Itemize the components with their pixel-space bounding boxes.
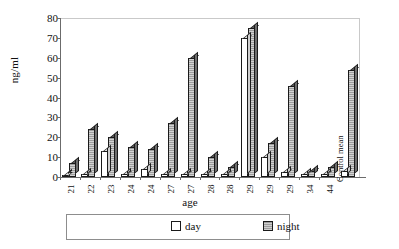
bar-side-face [194,51,198,174]
bar-side-face [134,141,138,174]
bar-group [221,18,241,177]
bar-day [241,38,248,177]
bar-side-face [254,22,258,174]
legend-swatch-day [171,221,181,231]
bar-day [341,171,348,177]
bar-day [221,174,228,177]
x-tick-mark [299,177,300,180]
bar-day [301,174,308,177]
x-tick-label: 29 [263,180,277,198]
x-tick-label: 29 [283,180,297,198]
legend-swatch-night [263,221,273,231]
x-tick-mark [160,177,161,180]
y-tick-mark [57,98,61,99]
bar-side-face [354,63,358,174]
x-tick-label: 44 [323,180,337,198]
bar-group [281,18,301,177]
bar-night [288,86,295,177]
y-tick-mark [57,157,61,158]
x-tick-label: 24 [124,180,138,198]
bar-group [121,18,141,177]
x-tick-mark [100,177,101,180]
bar-series-group [60,18,359,177]
bar-group [81,18,101,177]
y-tick-label: 30 [30,112,58,122]
x-tick-mark [140,177,141,180]
bar-night [188,58,195,177]
bar-side-face [247,32,251,174]
x-axis-title: age [150,196,230,208]
bar-side-face [75,157,79,174]
bar-side-face [94,123,98,174]
bar-group [141,18,161,177]
x-tick-mark [339,177,340,180]
chart-container: ng/ml 80706050403020100 2122232424272728… [0,0,399,249]
bar-day [81,174,88,177]
y-tick-label: 70 [30,33,58,43]
bar-night [208,157,215,177]
x-tick-label: 23 [104,180,118,198]
x-tick-mark [279,177,280,180]
x-tick-label: 22 [84,180,98,198]
bar-group [181,18,201,177]
bar-side-face [234,161,238,174]
y-tick-mark [57,58,61,59]
bar-group [101,18,121,177]
bar-day [181,174,188,177]
y-tick-label: 0 [30,172,58,182]
bar-group [161,18,181,177]
legend-item-night: night [263,219,300,234]
bar-group [261,18,281,177]
x-tick-label: 21 [64,180,78,198]
bar-group [241,18,261,177]
bar-day [141,169,148,177]
bar-side-face [294,79,298,174]
bar-day [201,174,208,177]
x-tick-mark [219,177,220,180]
bar-day [281,172,288,177]
y-tick-label: 40 [30,93,58,103]
y-tick-label: 60 [30,53,58,63]
bar-side-face [314,165,318,174]
bar-side-face [114,131,118,174]
bar-night [348,70,355,177]
legend-label: night [277,220,300,232]
x-tick-mark [180,177,181,180]
legend-label: day [185,220,201,232]
y-axis-title: ng/ml [8,40,28,100]
bar-side-face [154,143,158,174]
y-tick-label: 20 [30,132,58,142]
bar-side-face [174,117,178,174]
x-tick-label: 34 [303,180,317,198]
bar-side-face [267,151,271,174]
bar-side-face [107,145,111,174]
bar-day [261,157,268,177]
x-tick-label: 29 [243,180,257,198]
x-tick-mark [80,177,81,180]
y-tick-mark [57,117,61,118]
bar-day [321,174,328,177]
bar-day [161,174,168,177]
bar-group [301,18,321,177]
bar-day [121,174,128,177]
x-tick-mark [259,177,260,180]
chart-legend: daynight [66,214,290,240]
bar-day [62,175,69,177]
x-tick-mark [200,177,201,180]
bar-group [62,18,82,177]
y-tick-mark [57,137,61,138]
y-tick-label: 10 [30,152,58,162]
x-tick-mark [60,177,61,180]
y-tick-label: 80 [30,13,58,23]
y-tick-mark [57,78,61,79]
bar-side-face [214,151,218,174]
x-tick-mark [239,177,240,180]
y-tick-label: 50 [30,73,58,83]
bar-side-face [274,137,278,174]
y-tick-mark [57,38,61,39]
bar-group [201,18,221,177]
y-tick-mark [57,18,61,19]
legend-item-day: day [171,219,201,234]
x-tick-mark [120,177,121,180]
x-tick-mark [319,177,320,180]
